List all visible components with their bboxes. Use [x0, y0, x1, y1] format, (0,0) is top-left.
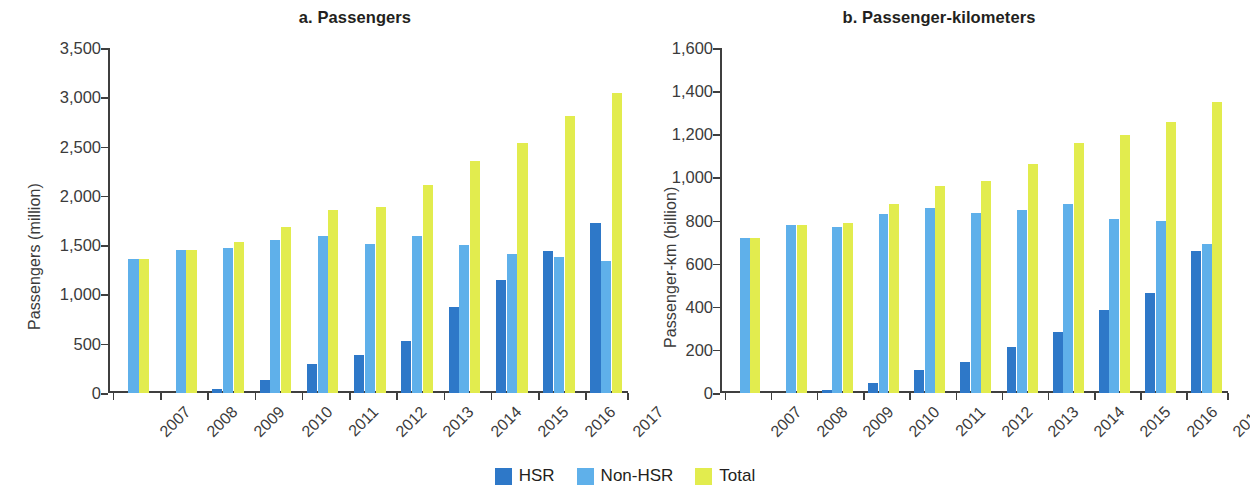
x-tick-mark: [396, 393, 398, 400]
bar-total-2008: [186, 250, 196, 393]
bar-non-hsr-2010: [270, 240, 280, 393]
y-tick-mark: [713, 48, 720, 50]
x-tick-label-2011: 2011: [345, 403, 382, 440]
bar-hsr-2010: [868, 383, 878, 393]
x-tick-mark: [302, 393, 304, 400]
bar-hsr-2009: [822, 390, 832, 393]
bar-group: [165, 48, 197, 393]
bar-total-2008: [797, 225, 807, 393]
x-tick-label-2008: 2008: [814, 403, 852, 441]
bar-non-hsr-2012: [365, 244, 375, 393]
y-tick-mark: [101, 196, 108, 198]
x-tick-mark: [160, 393, 162, 400]
x-tick-mark: [1227, 393, 1229, 400]
bar-total-2017: [612, 93, 622, 393]
x-tick-mark: [255, 393, 257, 400]
bar-non-hsr-2009: [223, 248, 233, 393]
bar-groups-b: [720, 48, 1228, 393]
y-tick-label: 0: [704, 385, 713, 402]
bar-group: [354, 48, 386, 393]
x-tick-mark: [585, 393, 587, 400]
x-tick-mark: [444, 393, 446, 400]
y-tick-label: 400: [685, 299, 713, 316]
x-tick-label-2009: 2009: [251, 403, 289, 441]
plot-area-a: 05001,0001,5002,0002,5003,0003,500 20072…: [108, 48, 628, 393]
x-tick-label-2014: 2014: [1091, 403, 1129, 441]
bar-total-2014: [1074, 143, 1084, 393]
bar-group: [776, 48, 807, 393]
chart-title-b: b. Passenger-kilometers: [640, 8, 1250, 27]
bar-group: [822, 48, 853, 393]
bar-total-2015: [517, 143, 527, 393]
bar-hsr-2017: [1191, 251, 1201, 393]
bar-non-hsr-2014: [1063, 204, 1073, 393]
bar-group: [914, 48, 945, 393]
bar-group: [868, 48, 899, 393]
bar-total-2017: [1212, 102, 1222, 393]
y-tick-label: 1,400: [672, 83, 713, 100]
chart-title-a: a. Passengers: [0, 8, 640, 27]
bar-total-2013: [423, 185, 433, 393]
bar-total-2009: [234, 242, 244, 393]
x-tick-mark: [817, 393, 819, 400]
bar-non-hsr-2014: [459, 245, 469, 393]
bar-hsr-2012: [354, 355, 364, 393]
bar-non-hsr-2009: [832, 227, 842, 393]
chart-panel-passenger-kilometers: b. Passenger-kilometers Passenger-km (bi…: [640, 0, 1250, 465]
x-tick-label-2013: 2013: [440, 403, 478, 441]
x-tick-mark: [207, 393, 209, 400]
y-tick-label: 1,000: [60, 286, 101, 303]
bar-hsr-2017: [590, 223, 600, 393]
x-tick-mark: [1140, 393, 1142, 400]
y-tick-label: 600: [685, 255, 713, 272]
y-tick-label: 2,500: [60, 138, 101, 155]
y-tick-label: 1,600: [672, 40, 713, 57]
bar-group: [496, 48, 528, 393]
plot-area-b: 02004006008001,0001,2001,4001,600 200720…: [720, 48, 1228, 393]
bar-group: [1191, 48, 1222, 393]
y-axis-title-b: Passenger-km (billion): [662, 187, 680, 348]
y-tick-label: 1,000: [672, 169, 713, 186]
x-tick-label-2015: 2015: [534, 403, 572, 441]
bar-total-2007: [139, 259, 149, 393]
x-tick-label-2007: 2007: [767, 403, 805, 441]
bar-total-2015: [1120, 135, 1130, 393]
y-axis-title-a: Passengers (million): [26, 183, 44, 330]
x-tick-mark: [627, 393, 629, 400]
y-tick-label: 3,500: [60, 40, 101, 57]
legend-swatch-icon: [695, 468, 712, 485]
bar-hsr-2009: [212, 389, 222, 393]
y-tick-mark: [713, 393, 720, 395]
bar-hsr-2014: [449, 307, 459, 393]
y-tick-label: 3,000: [60, 89, 101, 106]
x-tick-label-2011: 2011: [952, 403, 989, 440]
bar-total-2012: [981, 181, 991, 393]
bar-non-hsr-2017: [601, 261, 611, 393]
x-tick-mark: [491, 393, 493, 400]
x-tick-label-2015: 2015: [1137, 403, 1175, 441]
y-tick-label: 500: [73, 335, 101, 352]
chart-panel-passengers: a. Passengers Passengers (million) 05001…: [0, 0, 640, 465]
y-tick-mark: [713, 307, 720, 309]
x-tick-label-2017: 2017: [1229, 403, 1250, 441]
x-tick-label-2008: 2008: [204, 403, 242, 441]
bar-non-hsr-2011: [318, 236, 328, 393]
bar-total-2016: [1166, 122, 1176, 393]
x-tick-mark: [909, 393, 911, 400]
x-tick-mark: [113, 393, 115, 400]
bar-hsr-2011: [914, 370, 924, 393]
bar-hsr-2015: [1099, 310, 1109, 393]
bar-total-2010: [281, 227, 291, 393]
bar-hsr-2013: [1007, 347, 1017, 393]
y-tick-mark: [101, 344, 108, 346]
x-tick-mark: [349, 393, 351, 400]
bar-total-2010: [889, 204, 899, 393]
figure-root: a. Passengers Passengers (million) 05001…: [0, 0, 1250, 498]
bar-total-2012: [376, 207, 386, 393]
x-tick-mark: [771, 393, 773, 400]
y-tick-label: 0: [92, 385, 101, 402]
y-tick-mark: [713, 221, 720, 223]
x-tick-mark: [1048, 393, 1050, 400]
y-tick-label: 800: [685, 212, 713, 229]
bar-hsr-2010: [260, 380, 270, 393]
